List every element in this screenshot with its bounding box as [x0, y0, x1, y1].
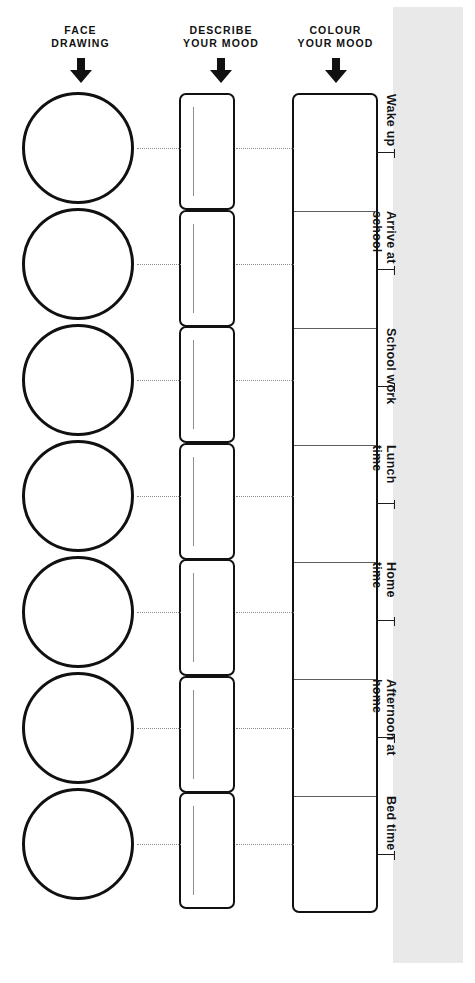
colour-cell-divider — [294, 562, 376, 563]
face-drawing-circle[interactable] — [22, 556, 134, 668]
describe-mood-box[interactable] — [179, 559, 235, 676]
face-drawing-circle[interactable] — [22, 672, 134, 784]
describe-mood-box[interactable] — [179, 326, 235, 443]
writing-guide-line — [193, 690, 194, 779]
connector-leader — [236, 148, 294, 149]
colour-cell-divider — [294, 796, 376, 797]
describe-mood-box[interactable] — [179, 792, 235, 909]
writing-guide-line — [193, 457, 194, 546]
connector-leader — [236, 380, 294, 381]
column-header-face-drawing: FACE DRAWING — [8, 24, 153, 50]
connector-leader — [137, 612, 181, 613]
time-of-day-panel — [393, 7, 463, 963]
down-arrow-icon — [325, 58, 347, 84]
face-drawing-circle[interactable] — [22, 788, 134, 900]
writing-guide-line — [193, 224, 194, 313]
colour-cell-divider — [294, 328, 376, 329]
describe-mood-box[interactable] — [179, 210, 235, 327]
connector-leader — [137, 844, 181, 845]
writing-guide-line — [193, 340, 194, 429]
connector-leader — [137, 380, 181, 381]
connector-leader — [236, 496, 294, 497]
colour-your-mood-column[interactable] — [292, 93, 378, 913]
describe-mood-box[interactable] — [179, 443, 235, 560]
colour-cell-divider — [294, 679, 376, 680]
arrow-head — [70, 70, 92, 83]
connector-leader — [137, 496, 181, 497]
arrow-head — [325, 70, 347, 83]
connector-leader — [137, 264, 181, 265]
down-arrow-icon — [70, 58, 92, 84]
writing-guide-line — [193, 806, 194, 895]
describe-mood-box[interactable] — [179, 676, 235, 793]
worksheet-page: FACE DRAWING DESCRIBE YOUR MOOD COLOUR Y… — [0, 0, 475, 983]
connector-leader — [137, 148, 181, 149]
connector-leader — [236, 728, 294, 729]
writing-guide-line — [193, 573, 194, 662]
connector-leader — [137, 728, 181, 729]
face-drawing-circle[interactable] — [22, 208, 134, 320]
describe-mood-box[interactable] — [179, 93, 235, 210]
arrow-head — [210, 70, 232, 83]
face-drawing-circle[interactable] — [22, 92, 134, 204]
connector-leader — [236, 844, 294, 845]
writing-guide-line — [193, 107, 194, 196]
column-header-colour-your-mood: COLOUR YOUR MOOD — [268, 24, 403, 50]
connector-leader — [236, 612, 294, 613]
colour-cell-divider — [294, 211, 376, 212]
down-arrow-icon — [210, 58, 232, 84]
connector-leader — [236, 264, 294, 265]
colour-cell-divider — [294, 445, 376, 446]
face-drawing-circle[interactable] — [22, 440, 134, 552]
face-drawing-circle[interactable] — [22, 324, 134, 436]
time-of-day-label: Bed time — [384, 796, 398, 966]
